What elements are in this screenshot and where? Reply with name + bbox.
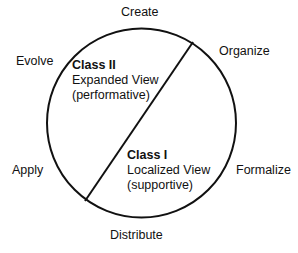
class-1-line2: (supportive) [127,178,210,193]
class-2-block: Class II Expanded View (performative) [72,58,159,103]
class-1-block: Class I Localized View (supportive) [127,148,210,193]
class-2-line2: (performative) [72,88,159,103]
class-2-title: Class II [72,58,159,73]
stage-organize: Organize [219,44,270,59]
class-1-line1: Localized View [127,163,210,178]
stage-evolve: Evolve [16,54,54,69]
stage-apply: Apply [12,163,43,178]
cycle-diagram [0,0,298,253]
stage-formalize: Formalize [236,163,291,178]
class-2-line1: Expanded View [72,73,159,88]
stage-distribute: Distribute [110,228,163,243]
stage-create: Create [121,5,159,20]
class-1-title: Class I [127,148,210,163]
